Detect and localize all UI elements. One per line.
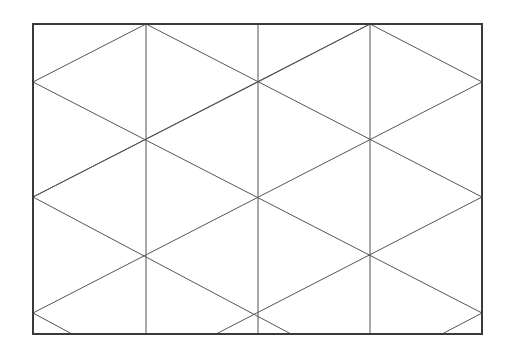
lattice-diagram — [0, 0, 512, 358]
background — [0, 0, 512, 358]
